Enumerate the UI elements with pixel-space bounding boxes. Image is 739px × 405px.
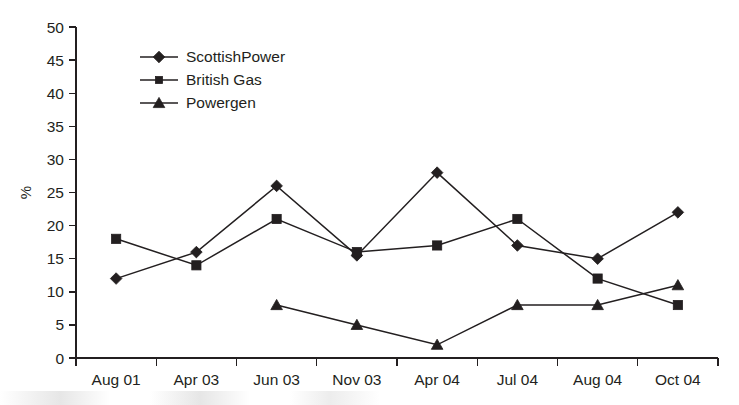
y-tick-label: 40 [47,85,65,102]
x-tick-label: Aug 01 [92,371,141,388]
data-marker-square [513,214,522,223]
y-tick-label: 5 [55,316,64,333]
legend-marker-diamond [153,51,165,63]
chart-axes [76,27,718,358]
y-tick-label: 20 [47,217,65,234]
legend-entry-powergen[interactable]: Powergen [140,94,256,111]
y-tick-label: 25 [47,184,64,201]
legend-label: British Gas [186,71,262,88]
data-marker-square [433,241,442,250]
data-marker-diamond [672,207,684,219]
line-chart: 05101520253035404550 Aug 01Apr 03Jun 03N… [0,0,739,405]
y-tick-label: 10 [47,283,65,300]
legend-marker-square [156,77,163,84]
data-marker-triangle [271,299,283,309]
legend-entry-british-gas[interactable]: British Gas [140,71,262,88]
y-tick-label: 0 [55,350,64,367]
x-tick-label: Nov 03 [332,371,381,388]
data-marker-square [593,274,602,283]
data-marker-square [112,234,121,243]
legend-label: Powergen [186,94,256,111]
chart-series-layer [110,167,683,350]
y-axis-ticks: 05101520253035404550 [47,19,76,367]
data-marker-triangle [672,280,684,290]
y-tick-label: 15 [47,250,64,267]
x-axis-ticks: Aug 01Apr 03Jun 03Nov 03Apr 04Jul 04Aug … [76,358,718,388]
y-axis-title-text: % [17,186,34,199]
y-tick-label: 35 [47,118,64,135]
data-marker-diamond [110,273,122,285]
series-powergen [271,280,684,350]
chart-legend: ScottishPowerBritish GasPowergen [140,48,285,111]
x-tick-label: Jun 03 [253,371,300,388]
legend-entry-scottishpower[interactable]: ScottishPower [140,48,285,65]
data-marker-square [352,247,361,256]
y-tick-label: 30 [47,151,65,168]
y-axis-title: % [17,186,34,199]
data-marker-square [192,261,201,270]
x-tick-label: Oct 04 [655,371,701,388]
y-tick-label: 45 [47,52,64,69]
series-line [277,285,678,345]
x-tick-label: Aug 04 [573,371,623,388]
data-marker-square [673,300,682,309]
x-tick-label: Apr 03 [174,371,220,388]
data-marker-diamond [592,253,604,265]
x-tick-label: Jul 04 [497,371,539,388]
chart-canvas: 05101520253035404550 Aug 01Apr 03Jun 03N… [0,0,739,405]
data-marker-square [272,214,281,223]
legend-label: ScottishPower [186,48,285,65]
y-tick-label: 50 [47,19,65,36]
x-tick-label: Apr 04 [414,371,460,388]
